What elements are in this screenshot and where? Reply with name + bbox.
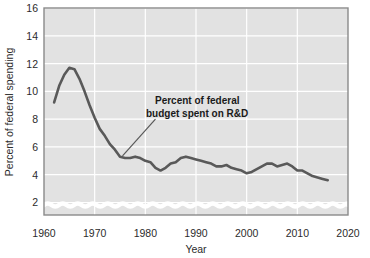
y-tick-label: 16 [26,2,38,14]
annotation-line-2: budget spent on R&D [146,108,248,119]
y-tick-label: 4 [32,169,38,181]
x-axis-title: Year [185,243,207,255]
chart-figure: Percent of federal budget spent on R&D 2… [0,0,370,258]
annotation-line-1: Percent of federal [155,95,240,106]
x-axis-tick-labels: 1960197019801990200020102020 [32,227,360,239]
y-tick-label: 2 [32,196,38,208]
x-tick-label: 1970 [83,227,107,239]
x-tick-label: 2000 [235,227,259,239]
x-tick-label: 1990 [184,227,208,239]
y-tick-label: 12 [26,58,38,70]
x-tick-label: 2010 [286,227,310,239]
line-chart: Percent of federal budget spent on R&D 2… [0,0,370,258]
y-tick-label: 8 [32,113,38,125]
x-tick-label: 2020 [336,227,360,239]
x-tick-label: 1960 [32,227,56,239]
y-axis-title: Percent of federal spending [3,48,15,177]
y-tick-label: 10 [26,85,38,97]
x-tick-label: 1980 [134,227,158,239]
y-tick-label: 6 [32,141,38,153]
y-tick-label: 14 [26,30,38,42]
y-axis-tick-labels: 246810121416 [26,2,38,208]
